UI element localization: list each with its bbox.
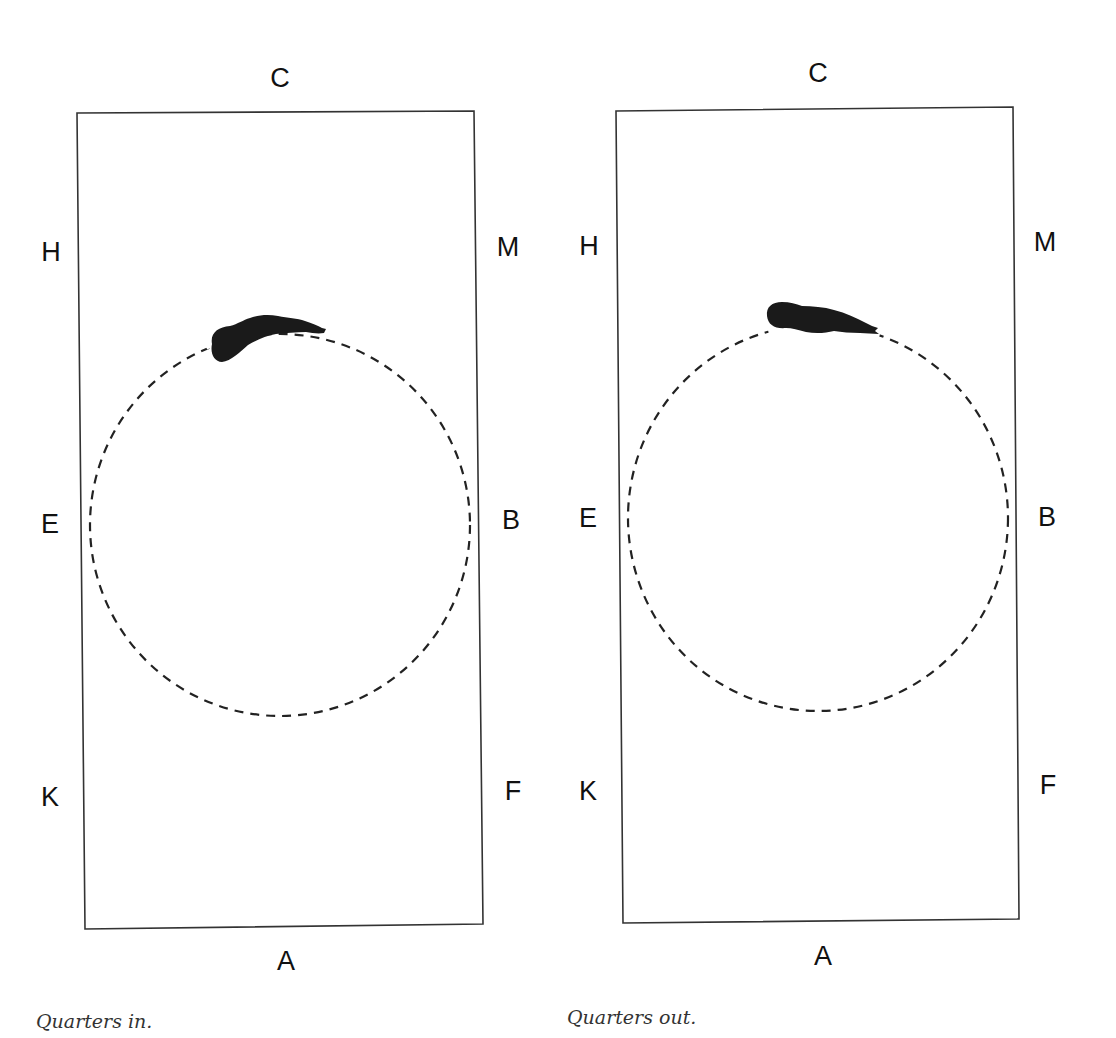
letter-f: F [505,778,522,805]
caption-quarters-in: Quarters in. [36,1010,152,1032]
letter-c: C [808,60,828,87]
arena-outline [77,111,483,929]
arena-quarters-in [77,111,483,929]
letter-a: A [277,948,295,975]
letter-c: C [270,65,290,92]
letter-e: E [41,511,59,538]
arena-quarters-out [616,107,1019,923]
letter-m: M [1034,229,1057,256]
letter-f: F [1040,772,1057,799]
caption-quarters-out: Quarters out. [567,1006,696,1028]
letter-m: M [497,234,520,261]
letter-k: K [41,784,59,811]
letter-e: E [579,505,597,532]
letter-h: H [579,233,599,260]
letter-k: K [579,778,597,805]
letter-b: B [1038,504,1056,531]
letter-b: B [502,507,520,534]
arena-outline [616,107,1019,923]
circle-path [90,334,470,716]
letter-a: A [814,943,832,970]
dressage-figure: C H M E B K F A C H M E B K F A Quarters… [0,0,1116,1038]
arena-drawings [0,0,1116,1038]
letter-h: H [41,239,61,266]
circle-path [628,325,1008,711]
